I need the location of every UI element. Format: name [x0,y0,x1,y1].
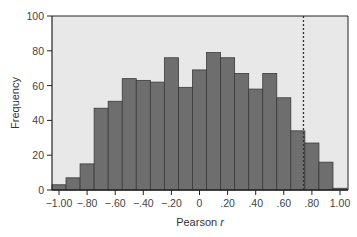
x-tick-label: .80 [305,197,320,209]
histogram-bar [66,178,80,190]
histogram-bar [305,143,319,190]
x-tick-label: −.80 [77,197,98,209]
x-tick-label: .60 [276,197,291,209]
histogram-bar [52,185,66,190]
histogram-bar [122,79,136,190]
histogram-bar [277,98,291,190]
x-tick-label: .40 [248,197,263,209]
histogram-bar [108,101,122,190]
histogram-bar [94,108,108,190]
y-tick-label: 100 [26,10,44,22]
y-tick-label: 80 [32,45,44,57]
x-axis: −1.00−.80−.60−.40−.200.20.40.60.801.00 [46,190,351,209]
y-axis: 020406080100 [26,10,52,196]
x-tick-label: .20 [220,197,235,209]
y-axis-title: Frequency [9,77,21,129]
histogram-bar [291,131,305,190]
histogram-bar [164,58,178,190]
histogram-bar [192,70,206,190]
x-tick-label: −.40 [133,197,154,209]
y-tick-label: 60 [32,80,44,92]
x-tick-label: −1.00 [46,197,73,209]
histogram-chart: 020406080100 −1.00−.80−.60−.40−.200.20.4… [0,0,357,237]
histogram-bar [319,162,333,190]
x-tick-label: 1.00 [330,197,351,209]
histogram-bar [207,53,221,190]
x-tick-label: 0 [197,197,203,209]
histogram-bar [249,89,263,190]
histogram-bar [178,87,192,190]
histogram-bar [136,80,150,190]
histogram-bar [263,73,277,190]
x-axis-title: Pearson r [176,216,225,228]
histogram-bar [80,164,94,190]
y-tick-label: 20 [32,149,44,161]
x-tick-label: −.60 [105,197,126,209]
y-tick-label: 40 [32,114,44,126]
histogram-bar [150,82,164,190]
histogram-bar [235,73,249,190]
x-tick-label: −.20 [161,197,182,209]
y-tick-label: 0 [38,184,44,196]
histogram-bar [221,58,235,190]
